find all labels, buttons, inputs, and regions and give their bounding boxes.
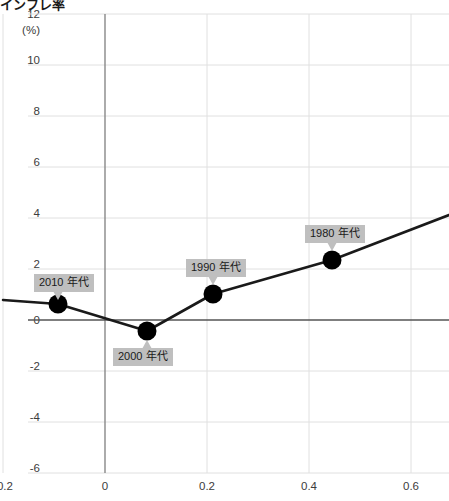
callout-pointer-1980s bbox=[327, 242, 337, 251]
vertical-gridlines bbox=[3, 14, 411, 473]
data-point-2000s[interactable] bbox=[138, 322, 157, 341]
plot-area bbox=[0, 0, 449, 501]
horizontal-gridlines bbox=[28, 14, 449, 473]
callout-label-2010s: 2010 年代 bbox=[34, 274, 94, 292]
callout-pointer-1990s bbox=[208, 276, 218, 285]
callout-pointer-2010s bbox=[53, 291, 63, 300]
inflation-rate-chart: インフレ率 12 (%) 10 8 6 4 2 0 -2 -4 -6 -0.2 … bbox=[0, 0, 449, 501]
callout-label-1990s: 1990 年代 bbox=[186, 259, 246, 277]
data-point-1990s[interactable] bbox=[204, 285, 223, 304]
data-point-1980s[interactable] bbox=[323, 251, 342, 270]
callout-label-1980s: 1980 年代 bbox=[305, 225, 365, 243]
callout-label-2000s: 2000 年代 bbox=[113, 348, 173, 366]
